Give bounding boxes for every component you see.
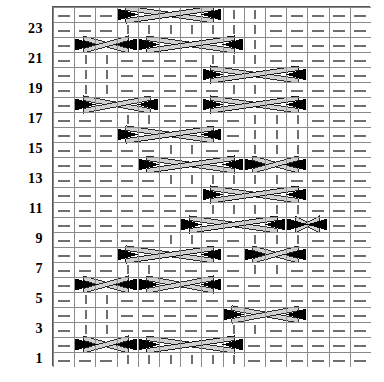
row-number-label: 11	[3, 201, 43, 216]
row-number-label: 15	[3, 141, 43, 156]
row-number-label: 3	[3, 321, 43, 336]
row-number-label: 5	[3, 291, 43, 306]
knitting-chart: 2321191715131197531	[0, 0, 384, 382]
row-number-label: 9	[3, 231, 43, 246]
row-number-label: 7	[3, 261, 43, 276]
stitch-grid-svg	[53, 7, 371, 367]
stitch-grid[interactable]	[52, 6, 370, 366]
row-number-label: 19	[3, 81, 43, 96]
row-number-label: 23	[3, 21, 43, 36]
row-number-gutter: 2321191715131197531	[0, 0, 52, 382]
row-number-label: 13	[3, 171, 43, 186]
row-number-label: 1	[3, 351, 43, 366]
row-number-label: 21	[3, 51, 43, 66]
row-number-label: 17	[3, 111, 43, 126]
